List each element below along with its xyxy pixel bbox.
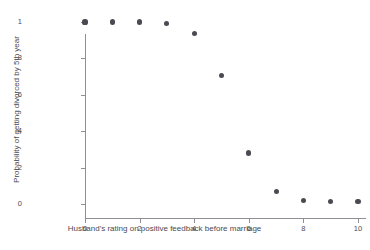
data-point bbox=[355, 199, 360, 204]
y-tick-mark bbox=[81, 95, 85, 96]
y-tick-label: 0 bbox=[0, 200, 22, 208]
y-axis-title: Probability of getting divorced by 5th y… bbox=[12, 20, 21, 200]
data-point bbox=[164, 21, 169, 26]
y-axis-line bbox=[85, 34, 86, 219]
x-tick-mark bbox=[140, 219, 141, 223]
data-point bbox=[110, 19, 115, 24]
y-tick-mark bbox=[81, 58, 85, 59]
plot-area: 1.8.6.4.20 0246810 bbox=[44, 14, 317, 204]
data-point bbox=[192, 31, 197, 36]
x-tick-mark bbox=[303, 219, 304, 223]
data-point bbox=[328, 199, 333, 204]
x-tick-mark bbox=[194, 219, 195, 223]
x-tick-mark bbox=[358, 219, 359, 223]
x-axis-title: Husband's rating on positive feedback be… bbox=[0, 224, 329, 233]
data-point bbox=[246, 150, 251, 155]
data-point bbox=[274, 189, 279, 194]
data-point bbox=[82, 19, 87, 24]
x-tick-label: 10 bbox=[346, 225, 370, 233]
data-point bbox=[301, 198, 306, 203]
y-tick-mark bbox=[81, 168, 85, 169]
y-tick-mark bbox=[81, 204, 85, 205]
y-tick-mark bbox=[81, 131, 85, 132]
x-tick-mark bbox=[85, 219, 86, 223]
data-point bbox=[219, 73, 224, 78]
x-tick-mark bbox=[249, 219, 250, 223]
x-axis-line bbox=[85, 218, 366, 219]
data-point bbox=[137, 19, 142, 24]
